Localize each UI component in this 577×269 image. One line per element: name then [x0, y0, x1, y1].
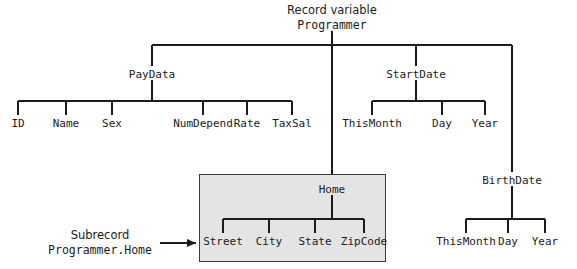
node-street: Street: [203, 235, 243, 248]
node-rate: Rate: [234, 117, 261, 130]
subrecord-caption-line1: Subrecord: [48, 228, 152, 243]
node-zipcode: ZipCode: [341, 235, 387, 248]
node-startdate-thismonth: ThisMonth: [342, 117, 402, 130]
node-startdate: StartDate: [386, 68, 446, 81]
root-label-line1: Record variable: [287, 3, 377, 18]
root-label-line2: Programmer: [287, 18, 377, 33]
node-paydata: PayData: [129, 68, 175, 81]
node-name: Name: [53, 117, 80, 130]
node-birthdate: BirthDate: [482, 174, 542, 187]
root-label: Record variable Programmer: [287, 3, 377, 33]
node-home: Home: [319, 183, 346, 196]
node-id: ID: [11, 117, 24, 130]
subrecord-caption-line2: Programmer.Home: [48, 243, 152, 258]
node-startdate-day: Day: [432, 117, 452, 130]
node-numdepend: NumDepend: [173, 117, 233, 130]
record-structure-diagram: Record variable Programmer PayData Start…: [0, 0, 577, 269]
node-state: State: [298, 235, 331, 248]
node-startdate-year: Year: [472, 117, 499, 130]
node-sex: Sex: [102, 117, 122, 130]
node-birthdate-thismonth: ThisMonth: [436, 235, 496, 248]
node-city: City: [256, 235, 283, 248]
node-birthdate-year: Year: [532, 235, 559, 248]
node-birthdate-day: Day: [498, 235, 518, 248]
subrecord-caption: Subrecord Programmer.Home: [48, 228, 152, 258]
node-taxsal: TaxSal: [272, 117, 312, 130]
